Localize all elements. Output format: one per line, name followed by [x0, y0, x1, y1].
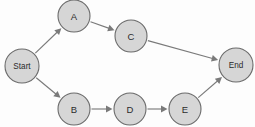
- node-b[interactable]: B: [58, 93, 90, 125]
- edge-e-end: [198, 77, 222, 97]
- edge-c-end: [148, 41, 218, 62]
- node-end[interactable]: End: [219, 48, 253, 82]
- edge-line-a-c: [91, 22, 110, 29]
- flow-diagram-canvas: StartACEndBDE: [0, 0, 255, 127]
- node-circle-d[interactable]: [114, 93, 146, 125]
- arrowhead-c-end: [211, 55, 218, 62]
- node-start[interactable]: Start: [5, 49, 39, 83]
- node-e[interactable]: E: [169, 93, 201, 125]
- arrowhead-d-e: [161, 106, 168, 113]
- node-c[interactable]: C: [115, 20, 147, 52]
- node-d[interactable]: D: [114, 93, 146, 125]
- node-circle-c[interactable]: [115, 20, 147, 52]
- edge-start-b: [36, 78, 60, 98]
- node-circle-end[interactable]: [219, 48, 253, 82]
- nodes-layer: StartACEndBDE: [5, 0, 253, 125]
- edge-line-c-end: [148, 41, 214, 59]
- edge-d-e: [148, 106, 168, 113]
- node-circle-start[interactable]: [5, 49, 39, 83]
- edge-a-c: [91, 22, 115, 31]
- node-circle-e[interactable]: [169, 93, 201, 125]
- arrowhead-b-d: [106, 106, 113, 113]
- edge-start-a: [35, 28, 61, 53]
- edge-line-start-a: [35, 32, 58, 54]
- edge-line-e-end: [198, 80, 218, 97]
- node-a[interactable]: A: [58, 0, 90, 32]
- node-circle-a[interactable]: [58, 0, 90, 32]
- edge-line-start-b: [36, 78, 56, 95]
- node-circle-b[interactable]: [58, 93, 90, 125]
- graph-svg: StartACEndBDE: [0, 0, 255, 127]
- edge-b-d: [92, 106, 113, 113]
